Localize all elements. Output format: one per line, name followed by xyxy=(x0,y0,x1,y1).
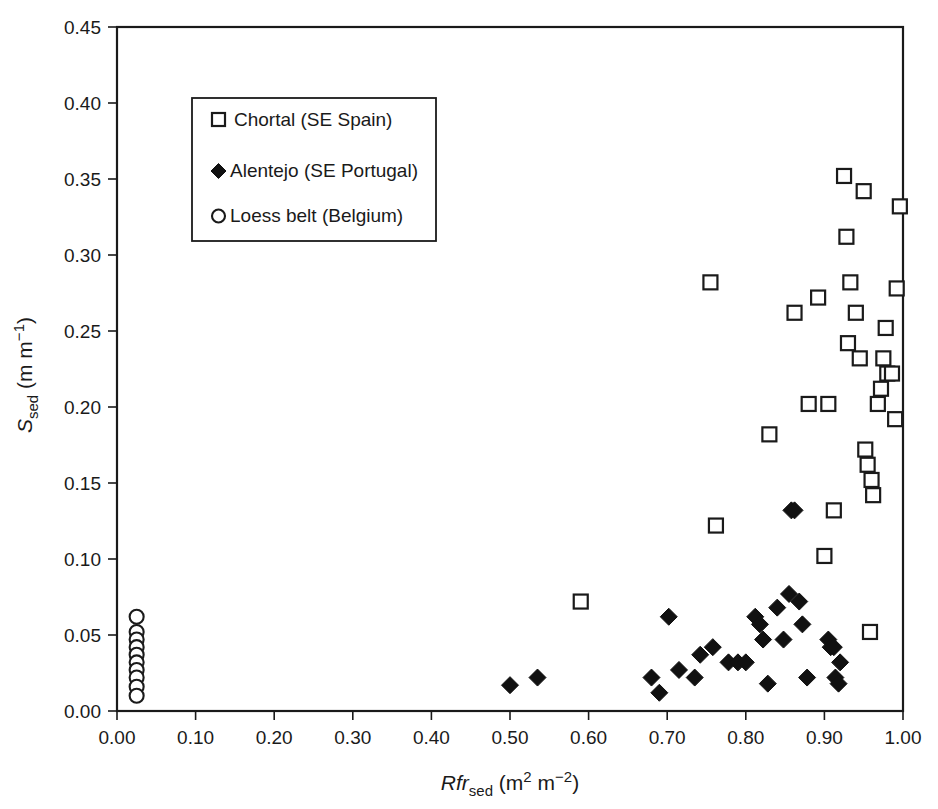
legend-marker-open-circle xyxy=(212,210,225,223)
y-axis-title-subscript: sed xyxy=(24,395,41,419)
data-point-square xyxy=(839,230,853,244)
data-point-square xyxy=(871,397,885,411)
legend-label-alentejo: Alentejo (SE Portugal) xyxy=(230,160,418,181)
y-tick-label: 0.35 xyxy=(64,169,101,190)
data-point-diamond xyxy=(502,677,519,694)
data-point-square xyxy=(890,281,904,295)
data-point-diamond xyxy=(794,616,811,633)
data-point-square xyxy=(853,351,867,365)
x-axis-ticks xyxy=(117,711,903,720)
data-point-diamond xyxy=(832,654,849,671)
x-tick-label: 1.00 xyxy=(885,727,922,748)
data-point-square xyxy=(885,367,899,381)
data-point-diamond xyxy=(529,669,546,686)
data-point-square xyxy=(843,275,857,289)
y-axis-title: Ssed (m m−1) xyxy=(10,317,41,433)
x-tick-label: 0.90 xyxy=(806,727,843,748)
data-point-square xyxy=(857,184,871,198)
data-point-square xyxy=(827,503,841,517)
y-tick-label: 0.40 xyxy=(64,93,101,114)
y-tick-label: 0.25 xyxy=(64,321,101,342)
y-tick-label: 0.00 xyxy=(64,701,101,722)
y-tick-label: 0.10 xyxy=(64,549,101,570)
y-axis-tick-labels: 0.000.050.100.150.200.250.300.350.400.45 xyxy=(64,17,101,722)
data-point-square xyxy=(858,443,872,457)
y-tick-label: 0.05 xyxy=(64,625,101,646)
data-point-circle xyxy=(130,610,144,624)
data-point-square xyxy=(762,427,776,441)
data-point-square xyxy=(879,321,893,335)
data-point-square xyxy=(788,306,802,320)
x-axis-title-sup2: −2 xyxy=(555,768,572,785)
data-point-circle xyxy=(130,689,144,703)
series-loess-points xyxy=(130,610,144,703)
x-axis-title: Rfrsed (m2 m−2) xyxy=(441,768,579,799)
x-axis-title-sup1: 2 xyxy=(523,768,531,785)
x-axis-title-units-suffix: ) xyxy=(572,771,579,794)
x-tick-label: 0.80 xyxy=(727,727,764,748)
data-point-diamond xyxy=(651,684,668,701)
data-point-square xyxy=(703,275,717,289)
x-tick-label: 0.30 xyxy=(334,727,371,748)
series-chortal-points xyxy=(574,169,907,639)
data-point-square xyxy=(863,625,877,639)
x-tick-label: 0.50 xyxy=(492,727,529,748)
data-point-diamond xyxy=(670,661,687,678)
legend: Chortal (SE Spain) Alentejo (SE Portugal… xyxy=(192,98,436,241)
x-tick-label: 0.10 xyxy=(177,727,214,748)
chart-canvas: 0.000.050.100.150.200.250.300.350.400.45… xyxy=(0,0,938,809)
x-tick-label: 0.20 xyxy=(256,727,293,748)
y-axis-title-italic: S xyxy=(13,419,36,433)
y-tick-label: 0.20 xyxy=(64,397,101,418)
x-tick-label: 0.60 xyxy=(570,727,607,748)
data-point-square xyxy=(811,291,825,305)
data-point-square xyxy=(849,306,863,320)
data-point-square xyxy=(888,412,902,426)
x-axis-title-subscript: sed xyxy=(469,782,493,799)
y-axis-title-units-suffix: ) xyxy=(13,317,36,324)
y-axis-ticks xyxy=(108,27,117,711)
data-point-square xyxy=(893,199,907,213)
data-point-diamond xyxy=(769,599,786,616)
data-point-square xyxy=(817,549,831,563)
legend-label-chortal: Chortal (SE Spain) xyxy=(234,109,392,130)
data-point-square xyxy=(865,473,879,487)
data-point-diamond xyxy=(660,608,677,625)
x-axis-tick-labels: 0.000.100.200.300.400.500.600.700.800.90… xyxy=(99,727,922,748)
x-axis-title-units-prefix: (m xyxy=(493,771,523,794)
data-point-diamond xyxy=(686,669,703,686)
y-axis-title-units-prefix: (m m xyxy=(13,341,36,395)
x-tick-label: 0.40 xyxy=(413,727,450,748)
data-point-square xyxy=(802,397,816,411)
data-point-square xyxy=(876,351,890,365)
data-point-square xyxy=(841,336,855,350)
x-tick-label: 0.70 xyxy=(649,727,686,748)
y-tick-label: 0.15 xyxy=(64,473,101,494)
data-point-diamond xyxy=(643,669,660,686)
data-point-diamond xyxy=(799,669,816,686)
data-point-square xyxy=(821,397,835,411)
y-tick-label: 0.45 xyxy=(64,17,101,38)
data-point-diamond xyxy=(775,631,792,648)
y-tick-label: 0.30 xyxy=(64,245,101,266)
legend-label-loess: Loess belt (Belgium) xyxy=(230,205,403,226)
data-point-square xyxy=(874,382,888,396)
data-point-square xyxy=(866,488,880,502)
data-point-square xyxy=(709,519,723,533)
x-axis-title-units-mid: m xyxy=(532,771,555,794)
data-point-square xyxy=(861,458,875,472)
data-point-diamond xyxy=(759,675,776,692)
data-point-diamond xyxy=(755,631,772,648)
scatter-plot-figure: 0.000.050.100.150.200.250.300.350.400.45… xyxy=(0,0,938,809)
legend-marker-open-square xyxy=(212,113,225,126)
x-axis-title-italic: Rfr xyxy=(441,771,470,794)
series-alentejo-points xyxy=(502,502,849,701)
x-tick-label: 0.00 xyxy=(99,727,136,748)
y-axis-title-sup: −1 xyxy=(10,324,27,341)
data-point-square xyxy=(574,595,588,609)
data-point-square xyxy=(837,169,851,183)
